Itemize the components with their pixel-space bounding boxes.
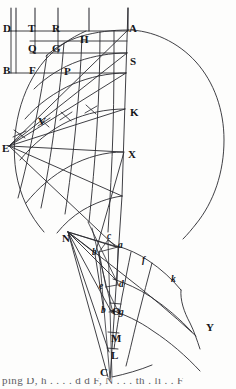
outer-arc-A-lower (183, 224, 196, 239)
label-N: N (62, 233, 70, 244)
label-K: K (130, 107, 139, 118)
figure-root: D T R A H Q G B F P S K V E X N O M L C … (0, 0, 236, 389)
label-e: e (99, 282, 103, 292)
label-M: M (111, 333, 121, 344)
caption-text: ping D, h . . . . d d F, N . . . th . li… (2, 378, 184, 386)
label-B: B (3, 65, 10, 76)
label-L: L (111, 350, 118, 361)
label-b-lower: b (101, 306, 106, 316)
label-F: F (29, 65, 36, 76)
label-Y: Y (206, 322, 214, 333)
label-V: V (38, 116, 46, 127)
label-H: H (80, 34, 89, 45)
fan-band-arcs (20, 30, 128, 233)
label-P: P (64, 66, 71, 77)
label-E: E (2, 143, 9, 154)
label-S: S (130, 56, 136, 67)
label-k: k (171, 275, 176, 285)
label-R: R (52, 23, 60, 34)
label-G: G (52, 43, 61, 54)
label-f: f (142, 256, 145, 266)
caption-strip: ping D, h . . . . d d F, N . . . th . li… (0, 378, 236, 389)
label-D: D (3, 23, 11, 34)
label-d: d (119, 280, 124, 290)
label-T: T (28, 23, 35, 34)
label-X: X (128, 149, 136, 160)
geometry-drawing (0, 0, 236, 389)
outer-arc-A (128, 30, 224, 224)
label-b-upper: b (92, 248, 97, 258)
lower-fan-ribs (114, 252, 200, 366)
label-a: a (118, 241, 123, 251)
label-c: c (107, 232, 111, 242)
label-g: g (119, 308, 124, 318)
fan-rays (9, 30, 128, 247)
label-Q: Q (28, 43, 37, 54)
label-A: A (129, 23, 137, 34)
bottom-flourish (112, 365, 152, 377)
label-C: C (100, 367, 108, 378)
